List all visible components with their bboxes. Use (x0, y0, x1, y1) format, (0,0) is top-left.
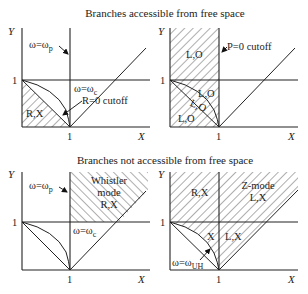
arrow-r-cutoff (63, 101, 82, 115)
x-tick-1: 1 (216, 274, 221, 285)
region-label-lo-lower: L,O (178, 113, 195, 124)
cma-diagram: Branches accessible from free space Bran… (0, 0, 308, 294)
region-label-rx: R,X (26, 108, 44, 119)
omega-p-label: ω=ωp (29, 39, 53, 53)
x-axis-label: X (287, 273, 296, 285)
omega-c-label: ω=ωc (73, 225, 97, 239)
title-accessible: Branches accessible from free space (85, 7, 245, 19)
zmode-label-2: L,X (250, 192, 267, 203)
y-axis-label: Y (8, 25, 16, 37)
zmode-label-1: Z-mode (241, 180, 275, 191)
y-axis-label: Y (8, 168, 16, 180)
region-label-x: X (207, 231, 215, 242)
whistler-label-3: R,X (100, 199, 118, 210)
panel-bottom-left: Y 1 1 X ω=ωp ω=ωc Whistler mode R,X (8, 168, 150, 285)
y-axis-label: Y (158, 25, 166, 37)
arrow-omega-uh (200, 249, 210, 260)
region-label-rx: R,X (191, 187, 209, 198)
y-tick-1: 1 (160, 75, 165, 86)
title-not-accessible: Branches not accessible from free space (77, 154, 253, 166)
x-tick-1: 1 (216, 131, 221, 142)
panel-bottom-right: Y 1 1 X R,X Z-mode L,X X L,X ω=ωUH (158, 168, 298, 285)
y-tick-1: 1 (160, 217, 165, 228)
omega-uh-label: ω=ωUH (172, 257, 204, 271)
x-axis-label: X (287, 130, 296, 142)
y-axis-label: Y (158, 168, 166, 180)
r-cutoff-label: R=0 cutoff (82, 95, 128, 106)
region-label-lx: L,X (225, 231, 242, 242)
omega-p-label: ω=ωp (29, 180, 53, 194)
resonance-line (219, 48, 295, 127)
whistler-label-1: Whistler (91, 175, 128, 186)
region-label-lo-mid: L,O (198, 88, 215, 99)
y-tick-1: 1 (12, 217, 17, 228)
panel-top-left: Y 1 1 X ω=ωp ω=ωc R=0 cutoff R,X (8, 25, 150, 142)
arrow-omega-p (59, 46, 68, 54)
x-tick-1: 1 (67, 131, 72, 142)
region-label-lo-upper: L,O (186, 49, 203, 60)
p-cutoff-label: P=0 cutoff (227, 41, 272, 52)
y-tick-1: 1 (12, 75, 17, 86)
panel-top-right: Y 1 1 X P=0 cutoff L,O L,O L,O L,O (158, 25, 298, 142)
x-axis-label: X (137, 273, 146, 285)
arrow-omega-p (59, 187, 67, 192)
x-axis-label: X (137, 130, 146, 142)
x-tick-1: 1 (67, 274, 72, 285)
whistler-label-2: mode (97, 187, 121, 198)
